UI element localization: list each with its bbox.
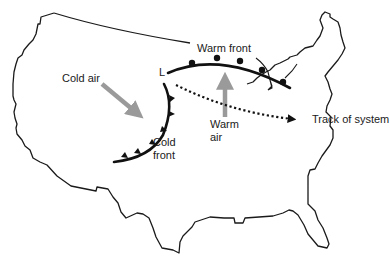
us-border-north — [54, 13, 190, 43]
us-map-outline — [13, 12, 345, 253]
warm-air-label-line2: air — [210, 131, 223, 143]
cold-front-label-line1: Cold — [153, 136, 176, 148]
cold-front-triangle — [168, 111, 175, 117]
weather-front-diagram: L Warm front Cold front Cold air Warm ai… — [0, 0, 390, 262]
warm-air-label-line1: Warm — [210, 118, 239, 130]
warm-front — [168, 55, 290, 88]
warm-front-semicircle — [214, 55, 220, 61]
cold-air-arrow — [102, 84, 138, 114]
cold-front-triangle — [121, 152, 128, 158]
cold-front-label-line2: front — [153, 149, 175, 161]
track-of-system-label: Track of system — [312, 113, 389, 125]
cold-front-triangle — [169, 95, 175, 102]
warm-front-semicircle — [189, 60, 195, 66]
cold-front-triangle — [134, 148, 141, 154]
us-border-west-north — [13, 12, 345, 253]
warm-front-label: Warm front — [197, 42, 251, 54]
track-of-system-line — [176, 85, 292, 119]
cold-air-label: Cold air — [62, 72, 100, 84]
warm-front-semicircle — [259, 67, 265, 73]
warm-front-semicircle — [280, 79, 286, 85]
warm-front-semicircle — [237, 58, 243, 64]
lake-erie-outline — [285, 64, 297, 78]
low-pressure-label: L — [159, 66, 165, 78]
